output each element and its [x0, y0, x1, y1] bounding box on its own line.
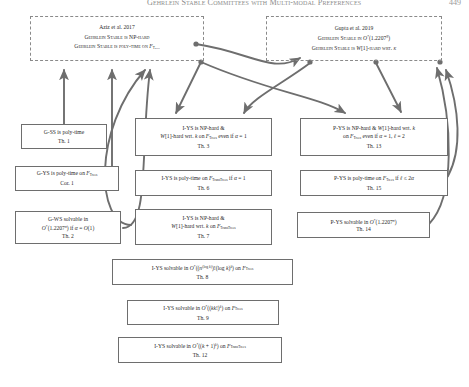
node-theorem-15-ref: Th. 15: [367, 184, 382, 192]
node-theorem-13: P-YS is NP-hard & W[1]-hard wrt. k on FT…: [300, 118, 448, 156]
node-theorem-8: I-YS solvable in O*((n(log k))!(log k)k)…: [112, 259, 293, 285]
node-theorem-3-line-2: W[1]-hard wrt. k on FTrees even if α = 1: [160, 132, 246, 142]
node-theorem-1-ref: Th. 1: [58, 137, 70, 145]
node-theorem-7-line-2: W[1]-hard wrt. k on FTransTrees: [171, 222, 235, 232]
node-theorem-7: I-YS is NP-hard & W[1]-hard wrt. k on FT…: [135, 209, 272, 245]
node-corollary-1: G-YS is poly-time on FTrees Cor. 1: [15, 166, 119, 191]
node-theorem-9-ref: Th. 9: [197, 314, 209, 322]
node-theorem-3: I-YS is NP-hard & W[1]-hard wrt. k on FT…: [135, 118, 272, 156]
node-theorem-3-line-1: I-YS is NP-hard &: [182, 124, 224, 132]
node-theorem-8-ref: Th. 8: [197, 273, 209, 281]
node-theorem-7-ref: Th. 7: [198, 232, 210, 240]
node-theorem-2-ref: Th. 2: [62, 232, 74, 240]
node-theorem-12-ref: Th. 12: [193, 351, 208, 359]
arrow-gupta-to-th3: [244, 63, 310, 113]
aziz-claim-1: Gehrlein Stable is NP-hard: [85, 33, 150, 43]
node-theorem-2-line-2: O*(1.2207n) if α = O(1): [42, 223, 95, 232]
aziz-reference-box: Aziz et al. 2017 Gehrlein Stable is NP-h…: [30, 16, 204, 61]
node-theorem-3-ref: Th. 3: [198, 142, 210, 150]
gupta-citation: Gupta et al. 2019: [335, 24, 374, 34]
header-title: Gehrlein Stable Committees with Multi-mo…: [104, 0, 404, 7]
node-theorem-8-line-1: I-YS solvable in O*((n(log k))!(log k)k)…: [152, 263, 254, 274]
node-theorem-14-line-1: P-YS solvable in O*(1.2207n): [330, 217, 396, 226]
node-theorem-2: G-WS solvable in O*(1.2207n) if α = O(1)…: [15, 211, 121, 244]
node-theorem-2-line-1: G-WS solvable in: [48, 215, 88, 223]
node-theorem-6-ref: Th. 6: [198, 184, 210, 192]
node-theorem-15: P-YS is poly-time on FTrees if ℓ ≤ 2α Th…: [300, 170, 448, 196]
node-theorem-6-line-1: I-YS is poly-time on FTransTrees if α = …: [161, 174, 245, 184]
running-header: Gehrlein Stable Committees with Multi-mo…: [0, 0, 469, 12]
node-theorem-13-ref: Th. 13: [367, 142, 382, 150]
node-theorem-14-ref: Th. 14: [356, 225, 371, 233]
aziz-claim-2: Gehrlein Stable is poly-time on FTrees: [74, 42, 159, 53]
node-theorem-13-line-2: on FTrees even if α = 1, ℓ = 2: [343, 132, 405, 142]
aziz-citation: Aziz et al. 2017: [99, 23, 134, 33]
node-theorem-15-line-1: P-YS is poly-time on FTrees if ℓ ≤ 2α: [334, 174, 414, 184]
arrow-aziz-to-th13: [201, 62, 345, 113]
gupta-claim-1: Gehrlein Stable in O*(1.2207n): [318, 33, 390, 43]
gupta-claim-2: Gehrlein Stable is W[1]-hard wrt. k: [312, 44, 396, 54]
node-theorem-1-line-1: G-SS is poly-time: [44, 128, 84, 136]
node-theorem-14: P-YS solvable in O*(1.2207n) Th. 14: [297, 212, 430, 238]
gupta-reference-box: Gupta et al. 2019 Gehrlein Stable in O*(…: [266, 16, 442, 61]
node-theorem-12-line-1: I-YS solvable in O*((k + 1)k) on FTransT…: [154, 341, 246, 352]
node-theorem-7-line-1: I-YS is NP-hard &: [182, 214, 224, 222]
figure-page: Gehrlein Stable Committees with Multi-mo…: [0, 0, 469, 387]
node-theorem-6: I-YS is poly-time on FTransTrees if α = …: [135, 170, 272, 196]
arrow-aziz-to-th3: [176, 62, 201, 113]
node-theorem-9-line-1: I-YS solvable in O*((kk!)k) on FTrees: [163, 303, 242, 314]
node-theorem-12: I-YS solvable in O*((k + 1)k) on FTransT…: [118, 337, 282, 363]
node-theorem-9: I-YS solvable in O*((kk!)k) on FTrees Th…: [127, 300, 279, 325]
node-corollary-1-ref: Cor. 1: [60, 179, 74, 187]
node-theorem-13-line-1: P-YS is NP-hard & W[1]-hard wrt. k: [333, 124, 415, 132]
node-theorem-1: G-SS is poly-time Th. 1: [21, 124, 107, 149]
header-page-number: 449: [449, 0, 461, 7]
node-corollary-1-line-1: G-YS is poly-time on FTrees: [37, 169, 98, 179]
arrow-gupta-to-th13: [376, 63, 401, 112]
